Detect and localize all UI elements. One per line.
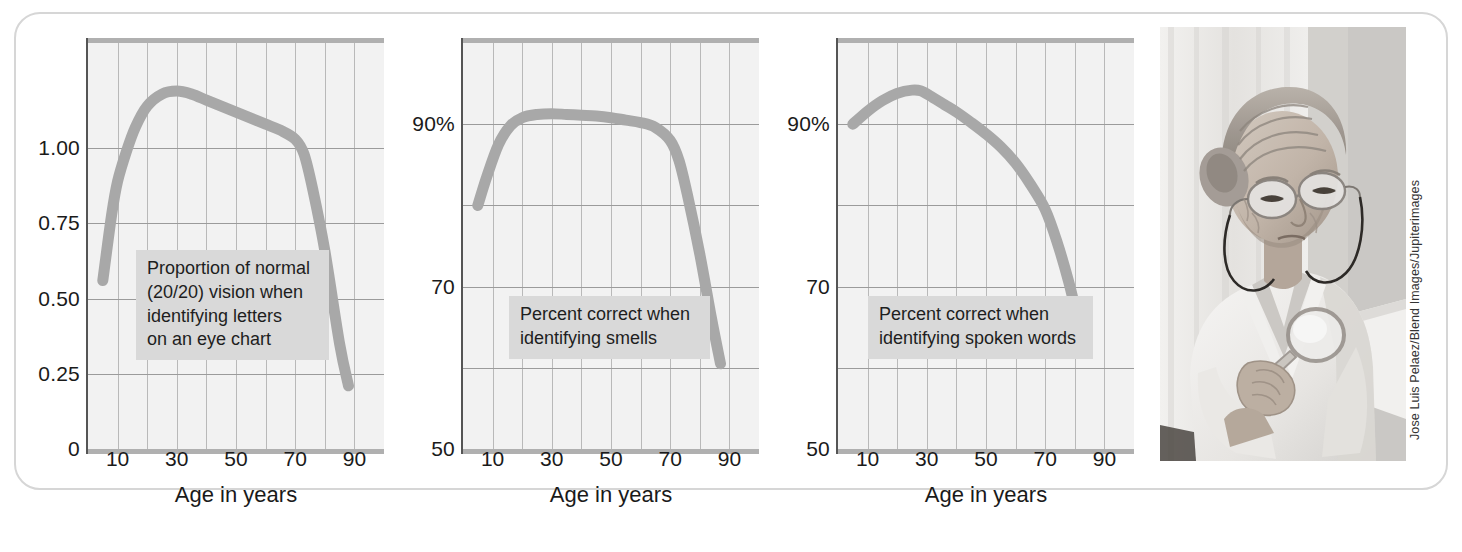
x-axis-tick-label: 70	[284, 447, 307, 471]
chart-panel-hearing: 90%7050 Percent correct when identifying…	[750, 0, 1190, 552]
x-axis-tick-label: 10	[106, 447, 129, 471]
photo-panel	[1160, 27, 1406, 461]
chart-panel-vision: 1.000.750.500.250 Proportion of normal (…	[0, 0, 440, 552]
x-axis-tick-label: 70	[659, 447, 682, 471]
figure-container: 1.000.750.500.250 Proportion of normal (…	[0, 0, 1462, 552]
x-axis-title-smell: Age in years	[463, 482, 759, 508]
photograph-elderly-woman	[1160, 27, 1406, 461]
x-axis-tick-label: 70	[1034, 447, 1057, 471]
photo-illustration	[1160, 27, 1406, 461]
x-axis-tick-label: 30	[915, 447, 938, 471]
x-axis-tick-label: 90	[1093, 447, 1116, 471]
x-axis-tick-label: 10	[481, 447, 504, 471]
x-axis-tick-label: 50	[599, 447, 622, 471]
x-axis-tick-label: 90	[718, 447, 741, 471]
x-axis-tick-label: 30	[540, 447, 563, 471]
x-axis-title-hearing: Age in years	[838, 482, 1134, 508]
x-axis-tick-label: 50	[224, 447, 247, 471]
x-axis-vision: 1030507090	[0, 0, 440, 552]
x-axis-smell: 1030507090	[375, 0, 815, 552]
x-axis-title-vision: Age in years	[88, 482, 384, 508]
x-axis-tick-label: 90	[343, 447, 366, 471]
photo-credit: Jose Luis Pelaez/Blend Images/Jupiterima…	[1408, 180, 1422, 440]
x-axis-tick-label: 30	[165, 447, 188, 471]
chart-panel-smell: 90%7050 Percent correct when identifying…	[375, 0, 815, 552]
x-axis-tick-label: 50	[974, 447, 997, 471]
x-axis-hearing: 1030507090	[750, 0, 1190, 552]
x-axis-tick-label: 10	[856, 447, 879, 471]
